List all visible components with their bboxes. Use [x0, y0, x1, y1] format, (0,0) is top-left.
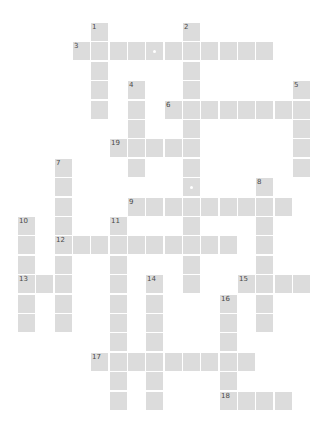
- crossword-cell[interactable]: [256, 392, 273, 410]
- crossword-cell[interactable]: 11: [110, 217, 127, 235]
- crossword-cell[interactable]: [110, 42, 127, 60]
- crossword-cell[interactable]: [238, 42, 255, 60]
- crossword-cell[interactable]: [238, 101, 255, 119]
- crossword-cell[interactable]: [55, 178, 72, 196]
- crossword-cell[interactable]: [18, 256, 35, 274]
- crossword-cell[interactable]: [275, 392, 292, 410]
- crossword-cell[interactable]: 9: [128, 198, 145, 216]
- crossword-cell[interactable]: 8: [256, 178, 273, 196]
- crossword-cell[interactable]: [146, 392, 163, 410]
- crossword-cell[interactable]: [91, 101, 108, 119]
- crossword-cell[interactable]: [55, 314, 72, 332]
- crossword-cell[interactable]: [165, 353, 182, 371]
- crossword-cell[interactable]: [183, 120, 200, 138]
- crossword-cell[interactable]: [110, 333, 127, 351]
- crossword-cell[interactable]: [256, 295, 273, 313]
- crossword-cell[interactable]: [146, 333, 163, 351]
- crossword-cell[interactable]: [183, 275, 200, 293]
- crossword-cell[interactable]: 14: [146, 275, 163, 293]
- crossword-cell[interactable]: [183, 256, 200, 274]
- crossword-cell[interactable]: [110, 372, 127, 390]
- crossword-cell[interactable]: [128, 139, 145, 157]
- crossword-cell[interactable]: [256, 275, 273, 293]
- crossword-cell[interactable]: [220, 198, 237, 216]
- crossword-cell[interactable]: [36, 275, 53, 293]
- crossword-cell[interactable]: [183, 217, 200, 235]
- crossword-cell[interactable]: [275, 275, 292, 293]
- crossword-cell[interactable]: [220, 372, 237, 390]
- crossword-cell[interactable]: [201, 236, 218, 254]
- crossword-cell[interactable]: [55, 275, 72, 293]
- crossword-cell[interactable]: [256, 217, 273, 235]
- crossword-cell[interactable]: [110, 295, 127, 313]
- crossword-cell[interactable]: [110, 256, 127, 274]
- crossword-cell[interactable]: [165, 42, 182, 60]
- crossword-cell[interactable]: 13: [18, 275, 35, 293]
- crossword-cell[interactable]: [220, 333, 237, 351]
- crossword-cell[interactable]: [183, 139, 200, 157]
- crossword-cell[interactable]: [220, 236, 237, 254]
- crossword-cell[interactable]: [293, 275, 310, 293]
- crossword-cell[interactable]: 5: [293, 81, 310, 99]
- crossword-cell[interactable]: [110, 353, 127, 371]
- crossword-cell[interactable]: [110, 314, 127, 332]
- crossword-cell[interactable]: [146, 198, 163, 216]
- crossword-cell[interactable]: [256, 198, 273, 216]
- crossword-cell[interactable]: [183, 62, 200, 80]
- crossword-cell[interactable]: [183, 42, 200, 60]
- crossword-cell[interactable]: 16: [220, 295, 237, 313]
- crossword-cell[interactable]: [18, 295, 35, 313]
- crossword-cell[interactable]: [183, 81, 200, 99]
- crossword-cell[interactable]: [256, 101, 273, 119]
- crossword-cell[interactable]: 1: [91, 23, 108, 41]
- crossword-cell[interactable]: [201, 42, 218, 60]
- crossword-cell[interactable]: 17: [91, 353, 108, 371]
- crossword-cell[interactable]: [275, 101, 292, 119]
- crossword-cell[interactable]: [128, 236, 145, 254]
- crossword-cell[interactable]: 10: [18, 217, 35, 235]
- crossword-cell[interactable]: [183, 101, 200, 119]
- crossword-cell[interactable]: [183, 178, 200, 196]
- crossword-cell[interactable]: [220, 101, 237, 119]
- crossword-cell[interactable]: [183, 353, 200, 371]
- crossword-cell[interactable]: [256, 314, 273, 332]
- crossword-cell[interactable]: [238, 353, 255, 371]
- crossword-cell[interactable]: [128, 120, 145, 138]
- crossword-cell[interactable]: [128, 353, 145, 371]
- crossword-cell[interactable]: [128, 42, 145, 60]
- crossword-cell[interactable]: [91, 42, 108, 60]
- crossword-cell[interactable]: [146, 42, 163, 60]
- crossword-cell[interactable]: 4: [128, 81, 145, 99]
- crossword-cell[interactable]: [293, 139, 310, 157]
- crossword-cell[interactable]: [165, 198, 182, 216]
- crossword-cell[interactable]: [110, 392, 127, 410]
- crossword-cell[interactable]: [146, 372, 163, 390]
- crossword-cell[interactable]: [293, 120, 310, 138]
- crossword-cell[interactable]: [238, 392, 255, 410]
- crossword-cell[interactable]: [91, 62, 108, 80]
- crossword-cell[interactable]: [146, 353, 163, 371]
- crossword-cell[interactable]: [146, 236, 163, 254]
- crossword-cell[interactable]: [256, 42, 273, 60]
- crossword-cell[interactable]: [183, 236, 200, 254]
- crossword-cell[interactable]: [18, 236, 35, 254]
- crossword-cell[interactable]: 7: [55, 159, 72, 177]
- crossword-cell[interactable]: [128, 101, 145, 119]
- crossword-cell[interactable]: [201, 101, 218, 119]
- crossword-cell[interactable]: [110, 275, 127, 293]
- crossword-cell[interactable]: [275, 198, 292, 216]
- crossword-cell[interactable]: [146, 295, 163, 313]
- crossword-cell[interactable]: [18, 314, 35, 332]
- crossword-cell[interactable]: [146, 314, 163, 332]
- crossword-cell[interactable]: 19: [110, 139, 127, 157]
- crossword-cell[interactable]: [91, 81, 108, 99]
- crossword-cell[interactable]: [73, 236, 90, 254]
- crossword-cell[interactable]: [183, 159, 200, 177]
- crossword-cell[interactable]: [201, 198, 218, 216]
- crossword-cell[interactable]: 12: [55, 236, 72, 254]
- crossword-cell[interactable]: [293, 101, 310, 119]
- crossword-cell[interactable]: [55, 295, 72, 313]
- crossword-cell[interactable]: [165, 139, 182, 157]
- crossword-cell[interactable]: [201, 353, 218, 371]
- crossword-cell[interactable]: [55, 198, 72, 216]
